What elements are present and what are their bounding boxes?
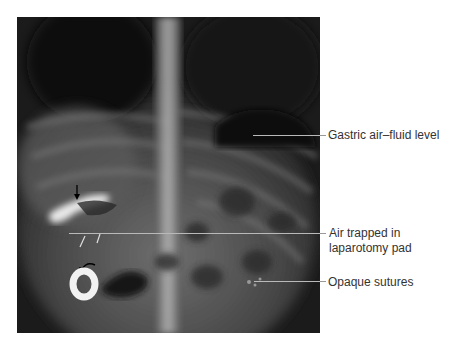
label-air-trapped-line2: laparotomy pad xyxy=(329,241,412,255)
air-trapped-leader-inner xyxy=(69,233,320,234)
spine xyxy=(155,17,181,333)
gastric-leader-inner xyxy=(253,135,320,136)
label-gastric-air-fluid-level: Gastric air–fluid level xyxy=(328,128,439,142)
label-opaque-sutures: Opaque sutures xyxy=(328,275,413,289)
xray-drawing xyxy=(17,17,320,333)
sutures-leader-inner xyxy=(254,281,320,282)
xray-image xyxy=(17,17,320,333)
sutures-leader-outer xyxy=(320,281,326,282)
label-air-trapped-line1: Air trapped in xyxy=(329,226,412,240)
gastric-leader-outer xyxy=(320,135,326,136)
air-trapped-leader-outer xyxy=(320,233,326,234)
label-air-trapped: Air trapped in laparotomy pad xyxy=(329,226,412,255)
